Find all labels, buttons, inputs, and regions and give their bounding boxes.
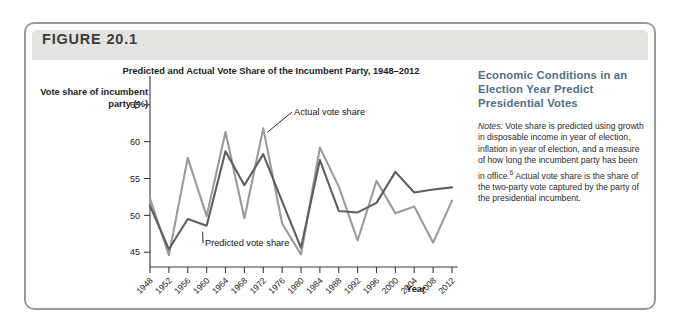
y-axis-ticks: 4550556065 xyxy=(130,100,150,258)
series-line-actual-vote-share xyxy=(150,128,452,255)
side-panel-notes: Notes: Vote share is predicted using gro… xyxy=(478,121,644,205)
chart-plot-area: 4550556065 19481952195619601964196819721… xyxy=(32,60,464,304)
chart-panel: Predicted and Actual Vote Share of the I… xyxy=(32,60,464,304)
side-panel: Economic Conditions in an Election Year … xyxy=(478,68,644,205)
x-tick-label-2012: 2012 xyxy=(436,275,457,296)
x-tick-label-1948: 1948 xyxy=(134,275,155,296)
y-tick-label-50: 50 xyxy=(130,211,140,221)
actual-vote-share-annotation: Actual vote share xyxy=(294,107,365,117)
side-panel-heading: Economic Conditions in an Election Year … xyxy=(478,68,644,110)
x-tick-label-1956: 1956 xyxy=(172,275,193,296)
x-tick-label-1996: 1996 xyxy=(361,275,382,296)
figure-number: FIGURE 20.1 xyxy=(42,31,138,47)
x-tick-label-1952: 1952 xyxy=(153,275,174,296)
y-tick-label-65: 65 xyxy=(130,100,140,110)
series-line-predicted-vote-share xyxy=(150,151,452,249)
x-tick-label-1972: 1972 xyxy=(248,275,269,296)
notes-lead-label: Notes: xyxy=(478,121,503,131)
y-tick-label-60: 60 xyxy=(130,137,140,147)
x-axis-title: Year xyxy=(406,284,426,294)
x-tick-label-1964: 1964 xyxy=(210,275,231,296)
predicted-vote-share-annotation: Predicted vote share xyxy=(205,238,289,248)
x-tick-label-1980: 1980 xyxy=(285,275,306,296)
figure-card: FIGURE 20.1 Predicted and Actual Vote Sh… xyxy=(24,22,656,310)
x-tick-label-1976: 1976 xyxy=(266,275,287,296)
x-tick-label-1984: 1984 xyxy=(304,275,325,296)
actual-vote-share-annotation-leader-line xyxy=(267,112,292,132)
data-series-group xyxy=(150,128,452,255)
x-tick-label-1968: 1968 xyxy=(229,275,250,296)
x-tick-label-1960: 1960 xyxy=(191,275,212,296)
x-tick-label-1988: 1988 xyxy=(323,275,344,296)
y-tick-label-45: 45 xyxy=(130,247,140,257)
x-tick-label-1992: 1992 xyxy=(342,275,363,296)
y-tick-label-55: 55 xyxy=(130,174,140,184)
x-tick-label-2000: 2000 xyxy=(380,275,401,296)
